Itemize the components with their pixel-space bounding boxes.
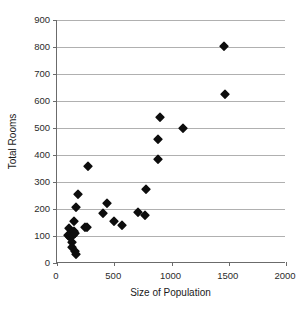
y-axis-tick bbox=[53, 209, 57, 210]
x-axis-tick-label: 0 bbox=[53, 271, 58, 281]
data-point bbox=[178, 123, 187, 132]
y-axis-tick bbox=[53, 101, 57, 102]
x-axis-tick bbox=[57, 262, 58, 266]
x-axis-tick bbox=[114, 262, 115, 266]
x-axis-title: Size of Population bbox=[56, 288, 285, 298]
y-axis-tick-label: 300 bbox=[4, 177, 50, 187]
x-axis-tick bbox=[229, 262, 230, 266]
x-axis-tick-label: 1500 bbox=[217, 271, 238, 281]
data-point bbox=[142, 184, 151, 193]
plot-area bbox=[56, 20, 285, 263]
gridline-y bbox=[57, 155, 285, 156]
y-axis-tick-label: 200 bbox=[4, 204, 50, 214]
data-point bbox=[221, 90, 230, 99]
x-axis-tick-label: 1000 bbox=[160, 271, 181, 281]
y-axis-tick-label: 700 bbox=[4, 69, 50, 79]
y-axis-tick bbox=[53, 47, 57, 48]
y-axis-tick-label: 900 bbox=[4, 15, 50, 25]
y-axis-tick bbox=[53, 20, 57, 21]
data-point bbox=[153, 155, 162, 164]
gridline-y bbox=[57, 209, 285, 210]
y-axis-tick-label: 0 bbox=[4, 258, 50, 268]
y-axis-tick bbox=[53, 236, 57, 237]
gridline-y bbox=[57, 74, 285, 75]
data-point bbox=[118, 220, 127, 229]
scatter-chart: Size of Population Total Rooms 010020030… bbox=[0, 0, 305, 312]
data-point bbox=[72, 202, 81, 211]
x-axis-tick bbox=[172, 262, 173, 266]
gridline-y bbox=[57, 236, 285, 237]
gridline-y bbox=[57, 47, 285, 48]
y-axis-tick bbox=[53, 74, 57, 75]
gridline-y bbox=[57, 182, 285, 183]
y-axis-tick-label: 500 bbox=[4, 123, 50, 133]
data-point bbox=[103, 198, 112, 207]
x-axis-tick-label: 500 bbox=[105, 271, 121, 281]
y-axis-title: Total Rooms bbox=[8, 20, 22, 263]
data-point bbox=[74, 189, 83, 198]
y-axis-tick bbox=[53, 128, 57, 129]
data-point bbox=[155, 113, 164, 122]
data-point bbox=[154, 134, 163, 143]
y-axis-tick-label: 400 bbox=[4, 150, 50, 160]
y-axis-tick-label: 600 bbox=[4, 96, 50, 106]
y-axis-tick bbox=[53, 182, 57, 183]
data-point bbox=[83, 161, 92, 170]
gridline-y bbox=[57, 128, 285, 129]
x-axis-tick-label: 2000 bbox=[274, 271, 295, 281]
y-axis-tick-label: 800 bbox=[4, 42, 50, 52]
data-point bbox=[219, 41, 228, 50]
x-axis-tick bbox=[286, 262, 287, 266]
y-axis-tick-label: 100 bbox=[4, 231, 50, 241]
y-axis-tick bbox=[53, 155, 57, 156]
gridline-y bbox=[57, 101, 285, 102]
gridline-y bbox=[57, 20, 285, 21]
